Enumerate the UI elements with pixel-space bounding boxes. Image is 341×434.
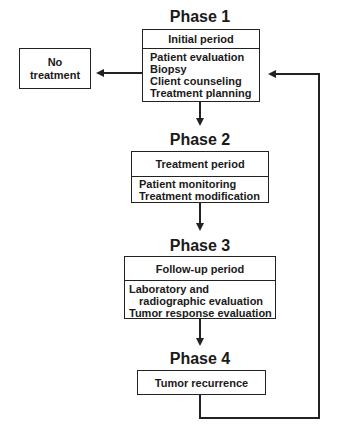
- phase-2-header: Treatment period: [132, 152, 268, 177]
- no-treatment-line1: No: [48, 56, 63, 69]
- phase-1-items: Patient evaluation Biopsy Client counsel…: [143, 49, 259, 99]
- no-treatment-box: No treatment: [19, 48, 91, 89]
- no-treatment-line2: treatment: [30, 69, 80, 82]
- phase-1-item: Treatment planning: [150, 87, 259, 99]
- phase-3-item: radiographic evaluation: [129, 295, 275, 307]
- phase-4-title: Phase 4: [130, 350, 270, 368]
- phase-2-title: Phase 2: [130, 131, 270, 149]
- phase-1-box: Initial period Patient evaluation Biopsy…: [142, 29, 260, 102]
- phase-1-item: Client counseling: [150, 75, 259, 87]
- phase-3-item: Laboratory and: [129, 283, 275, 295]
- phase-2-box: Treatment period Patient monitoring Trea…: [131, 151, 269, 203]
- phase-2-items: Patient monitoring Treatment modificatio…: [132, 177, 268, 202]
- phase-1-item: Biopsy: [150, 63, 259, 75]
- phase-3-box: Follow-up period Laboratory and radiogra…: [124, 256, 276, 319]
- phase-1-item: Patient evaluation: [150, 51, 259, 63]
- phase-4-header: Tumor recurrence: [155, 377, 248, 389]
- phase-2-item: Patient monitoring: [139, 178, 268, 190]
- phase-3-item: Tumor response evaluation: [129, 307, 275, 319]
- phase-2-item: Treatment modification: [139, 190, 268, 202]
- phase-3-items: Laboratory and radiographic evaluation T…: [125, 281, 275, 319]
- phase-3-header: Follow-up period: [125, 257, 275, 281]
- phase-3-title: Phase 3: [130, 237, 270, 255]
- phase-1-title: Phase 1: [130, 8, 270, 26]
- phase-1-header: Initial period: [143, 30, 259, 49]
- phase-4-box: Tumor recurrence: [137, 370, 266, 395]
